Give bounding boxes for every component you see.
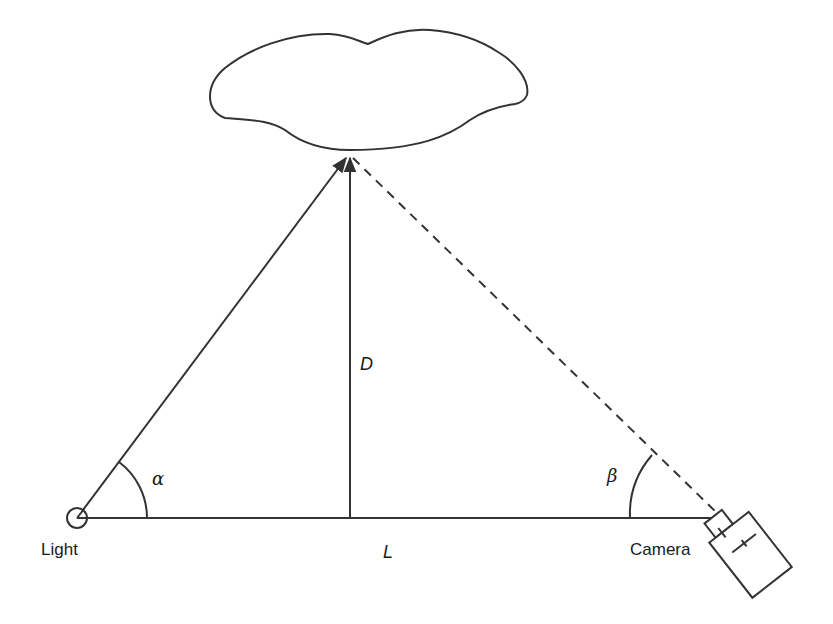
target-object-outline — [210, 30, 527, 150]
camera-icon — [698, 498, 792, 598]
baseline-label: L — [383, 543, 393, 561]
angle-alpha-label: α — [152, 470, 164, 488]
camera-sightline-dashed — [353, 158, 718, 514]
angle-alpha-arc — [119, 462, 147, 518]
angle-beta-arc — [630, 455, 652, 518]
light-ray-arrow — [77, 158, 346, 518]
distance-label: D — [360, 355, 373, 373]
light-label: Light — [41, 541, 78, 558]
light-source-icon — [67, 508, 87, 528]
camera-label: Camera — [630, 541, 690, 558]
triangulation-diagram — [0, 0, 833, 624]
angle-beta-label: β — [607, 467, 617, 485]
